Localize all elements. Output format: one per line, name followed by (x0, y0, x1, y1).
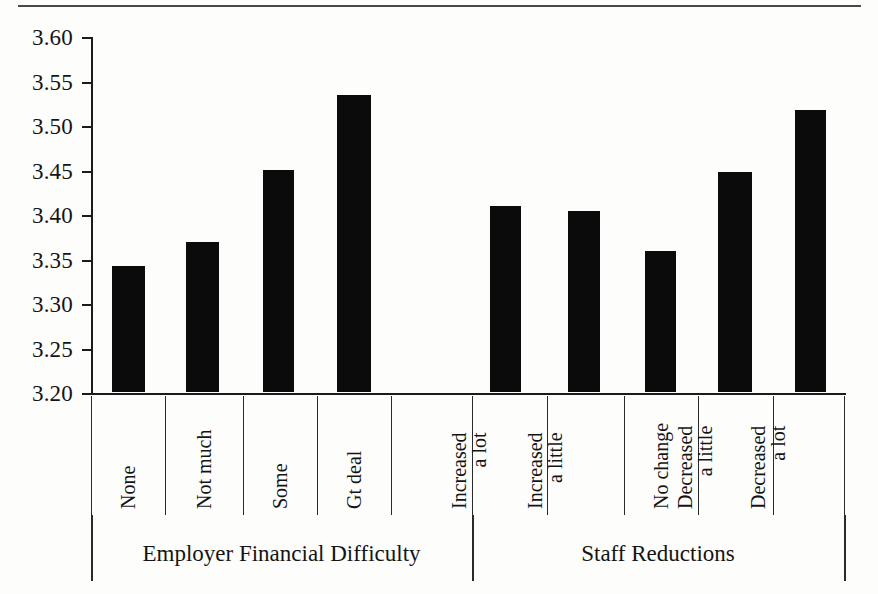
category-label-increased-a-lot: Increaseda lot (449, 432, 489, 509)
y-axis-tick: 3.25 (82, 349, 93, 351)
y-axis-tick: 3.40 (82, 215, 93, 217)
x-axis-spine (91, 393, 846, 395)
bar-chart-figure: 3.603.553.503.453.403.353.303.253.20 Non… (0, 0, 878, 594)
category-label-not-much: Not much (194, 430, 214, 509)
category-cell: Some (250, 396, 310, 515)
y-axis-tick-label: 3.25 (32, 337, 73, 363)
group-title-employer-financial-difficulty: Employer Financial Difficulty (91, 541, 472, 567)
category-cell-divider (391, 396, 392, 515)
bar-not-much (186, 242, 219, 392)
y-axis-tick-label: 3.60 (32, 25, 73, 51)
category-label-line-2: a lot (768, 426, 788, 509)
group-title-staff-reductions: Staff Reductions (472, 541, 844, 567)
bar-none (112, 266, 145, 392)
bar-increased-a-little (568, 211, 600, 392)
y-axis-tick-label: 3.45 (32, 159, 73, 185)
y-axis-tick: 3.35 (82, 260, 93, 262)
y-axis-tick: 3.55 (82, 82, 93, 84)
y-axis-tick-label: 3.55 (32, 70, 73, 96)
category-cell: None (98, 396, 158, 515)
category-cell: Decreaseda lot (778, 396, 838, 515)
category-cell-divider (91, 396, 92, 515)
y-axis-tick: 3.50 (82, 126, 93, 128)
category-cell-divider (243, 396, 244, 515)
category-label-line-1: Decreased (747, 426, 769, 509)
y-axis-tick: 3.60 (82, 37, 93, 39)
bar-increased-a-lot (490, 206, 521, 392)
category-label-some: Some (270, 463, 290, 509)
category-label-band: NoneNot muchSomeGt dealIncreaseda lotInc… (91, 396, 846, 515)
plot-area: 3.603.553.503.453.403.353.303.253.20 (91, 38, 846, 394)
y-axis-tick-label: 3.40 (32, 203, 73, 229)
bar-no-change (645, 251, 676, 393)
bar-gt-deal (337, 95, 371, 392)
category-cell-divider (317, 396, 318, 515)
top-divider-rule (18, 5, 861, 7)
bar-decreased-a-little (718, 172, 752, 392)
category-label-line-2: a little (695, 426, 715, 509)
category-cell-divider (624, 396, 625, 515)
y-axis-tick-label: 3.50 (32, 114, 73, 140)
bar-decreased-a-lot (795, 110, 826, 392)
bar-some (263, 170, 294, 393)
category-cell: Gt deal (324, 396, 384, 515)
category-label-none: None (118, 466, 138, 509)
group-title-band: Employer Financial Difficulty Staff Redu… (91, 515, 846, 581)
y-axis-tick: 3.30 (82, 304, 93, 306)
y-axis-tick: 3.45 (82, 171, 93, 173)
category-label-decreased-a-little: Decreaseda little (675, 426, 715, 509)
y-axis-tick: 3.20 (82, 393, 93, 395)
category-cell-divider (844, 396, 845, 515)
category-label-line-1: Decreased (674, 426, 696, 509)
category-label-increased-a-little: Increaseda little (525, 432, 565, 509)
category-label-no-change: No change (651, 423, 671, 509)
category-label-line-1: Increased (524, 432, 546, 509)
group-rule-right (844, 515, 846, 581)
category-label-line-2: a little (545, 432, 565, 509)
y-axis-tick-label: 3.35 (32, 248, 73, 274)
category-cell: Increaseda little (555, 396, 615, 515)
category-label-gt-deal: Gt deal (344, 451, 364, 509)
category-cell: Not much (174, 396, 234, 515)
y-axis-tick-label: 3.30 (32, 292, 73, 318)
category-label-line-1: Increased (448, 432, 470, 509)
category-label-line-2: a lot (469, 432, 489, 509)
y-axis-tick-label: 3.20 (32, 381, 73, 407)
category-label-decreased-a-lot: Decreaseda lot (748, 426, 788, 509)
category-cell-divider (165, 396, 166, 515)
